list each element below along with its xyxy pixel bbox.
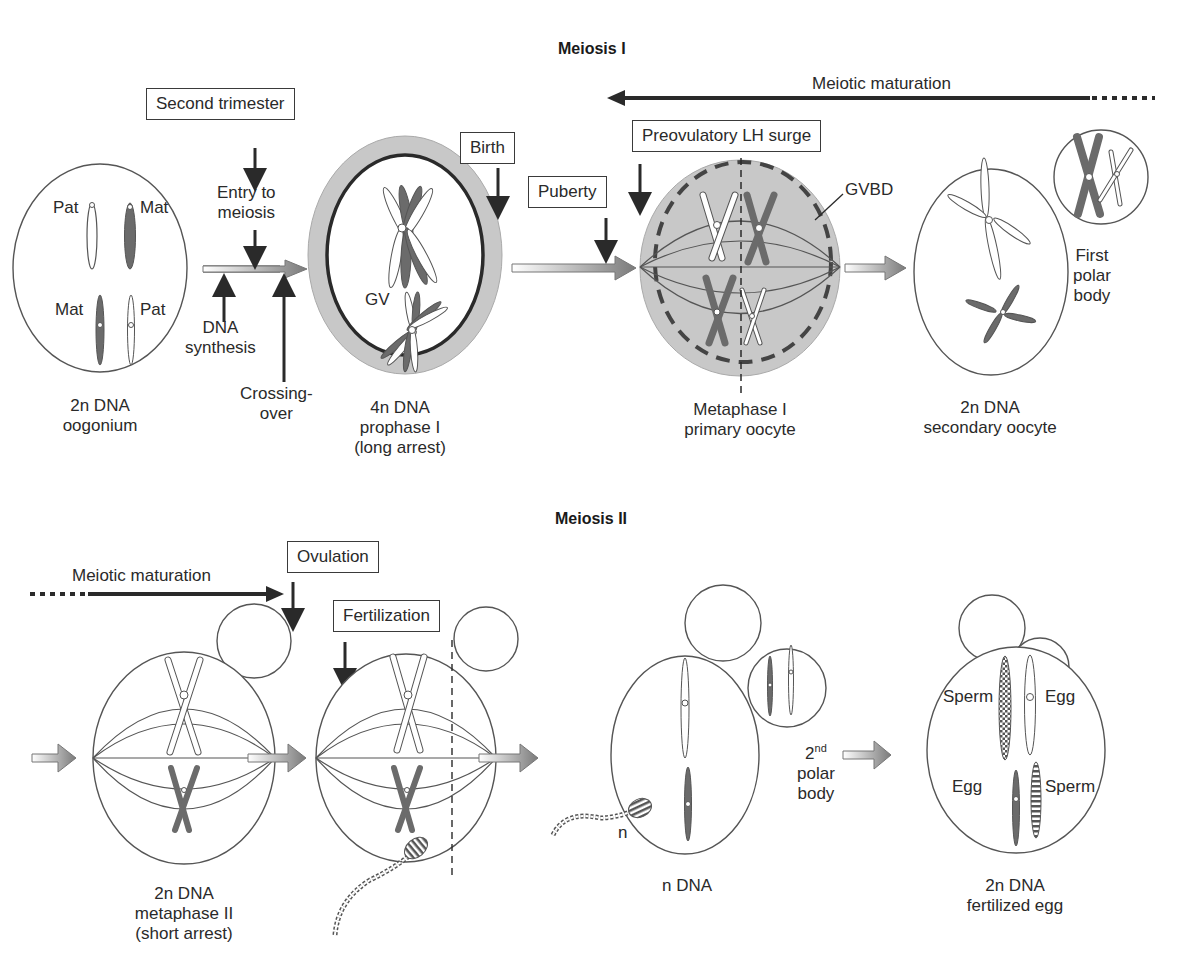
crossing-over-label: Crossing- over xyxy=(240,384,313,424)
meiotic-maturation-label-2: Meiotic maturation xyxy=(72,566,211,586)
arrow-to-fertilized-egg xyxy=(843,741,891,769)
meiotic-maturation-arrow-2 xyxy=(30,586,284,602)
meiosis-diagram xyxy=(0,0,1196,965)
stage-fertilized-egg-label: 2n DNA fertilized egg xyxy=(950,876,1080,916)
egg-label-bottom: Egg xyxy=(952,777,982,797)
lh-surge-box: Preovulatory LH surge xyxy=(632,120,821,152)
arrow-metaphase-to-secondary xyxy=(845,256,906,280)
stage-metaphase-2-label: 2n DNA metaphase II (short arrest) xyxy=(124,884,244,944)
oogonium-cell xyxy=(13,164,187,372)
sperm-label-bottom: Sperm xyxy=(1045,777,1095,797)
stage-metaphase-1-label: Metaphase I primary oocyte xyxy=(680,400,800,440)
arrow-oogonium-to-prophase xyxy=(203,260,307,278)
birth-box: Birth xyxy=(460,132,515,164)
first-polar-body xyxy=(1054,130,1148,224)
second-trimester-box: Second trimester xyxy=(146,88,295,120)
second-polar-body-label: 2nd polar body xyxy=(797,738,835,804)
ovulation-box: Ovulation xyxy=(287,541,379,573)
meiosis-1-title: Meiosis I xyxy=(558,40,626,58)
first-polar-body-label: First polar body xyxy=(1073,246,1111,306)
mat-label-bottom: Mat xyxy=(55,300,83,320)
metaphase-1-oocyte xyxy=(640,158,843,395)
n-label: n xyxy=(618,823,627,843)
fertilization-box: Fertilization xyxy=(333,600,440,632)
entry-to-meiosis-label: Entry to meiosis xyxy=(217,183,276,223)
mat-label-top: Mat xyxy=(140,198,168,218)
stage-oogonium-label: 2n DNA oogonium xyxy=(55,396,145,436)
stage-prophase-label: 4n DNA prophase I (long arrest) xyxy=(345,398,455,458)
stage-secondary-oocyte-label: 2n DNA secondary oocyte xyxy=(920,398,1060,438)
gv-label: GV xyxy=(365,290,390,310)
pat-label-top: Pat xyxy=(53,198,79,218)
metaphase-2-oocyte xyxy=(93,604,291,864)
stage-n-dna-label: n DNA xyxy=(642,876,732,896)
prophase-oocyte xyxy=(308,136,502,374)
dna-synthesis-label: DNA synthesis xyxy=(185,318,256,358)
gvbd-label: GVBD xyxy=(845,180,893,200)
fertilized-egg xyxy=(927,595,1105,853)
meiotic-maturation-label-1: Meiotic maturation xyxy=(812,74,951,94)
arrow-into-metaphase-2 xyxy=(32,744,76,772)
sperm-label-top: Sperm xyxy=(943,687,993,707)
pat-label-bottom: Pat xyxy=(140,300,166,320)
secondary-oocyte xyxy=(914,158,1068,375)
egg-label-top: Egg xyxy=(1045,687,1075,707)
puberty-box: Puberty xyxy=(528,176,607,208)
arrow-prophase-to-metaphase xyxy=(512,256,636,280)
meiosis-2-title: Meiosis II xyxy=(555,510,627,528)
